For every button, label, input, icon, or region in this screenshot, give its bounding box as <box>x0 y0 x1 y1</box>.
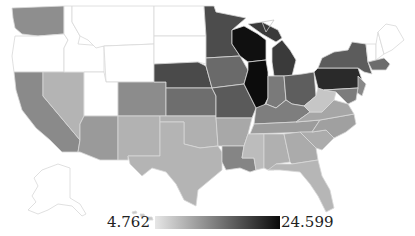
state-OR[interactable] <box>12 34 68 72</box>
color-scale-legend: 4.762 24.599 <box>100 213 360 233</box>
us-choropleth-map <box>0 0 415 236</box>
state-FL[interactable] <box>268 160 334 212</box>
legend-min-label: 4.762 <box>107 213 150 231</box>
state-NM[interactable] <box>118 116 160 160</box>
state-ND[interactable] <box>154 6 206 36</box>
legend-gradient-bar <box>155 216 280 229</box>
state-AZ[interactable] <box>78 116 118 160</box>
legend-max-label: 24.599 <box>281 213 334 231</box>
state-PA[interactable] <box>314 68 362 90</box>
state-VT[interactable] <box>366 44 376 62</box>
state-MT[interactable] <box>72 6 154 48</box>
state-CO[interactable] <box>118 82 166 116</box>
state-AK[interactable] <box>28 164 86 216</box>
state-KS[interactable] <box>166 88 216 116</box>
state-IA[interactable] <box>206 56 248 88</box>
state-WA[interactable] <box>12 6 64 36</box>
state-WY[interactable] <box>104 44 154 82</box>
state-SD[interactable] <box>154 36 206 64</box>
